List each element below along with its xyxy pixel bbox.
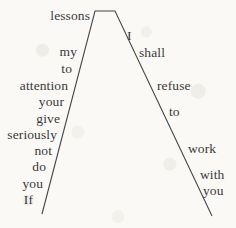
left-word: do xyxy=(32,160,46,174)
right-word: to xyxy=(169,105,180,119)
right-word: work xyxy=(188,142,216,156)
left-word: you xyxy=(22,177,43,191)
left-word: not xyxy=(34,144,52,158)
left-word: seriously xyxy=(7,128,57,142)
left-word: give xyxy=(36,112,60,126)
right-word: refuse xyxy=(157,79,191,93)
left-word: your xyxy=(39,95,64,109)
chevron-poem-figure: lessonsmytoattentionyourgiveseriouslynot… xyxy=(0,0,236,228)
right-word: you xyxy=(203,184,224,198)
right-word: shall xyxy=(139,46,165,60)
left-word: my xyxy=(60,45,77,59)
left-word: lessons xyxy=(50,9,90,23)
right-word: I xyxy=(127,29,132,43)
left-word: If xyxy=(24,193,33,207)
left-word: attention xyxy=(20,79,68,93)
left-word: to xyxy=(61,62,72,76)
right-word: with xyxy=(200,168,224,182)
